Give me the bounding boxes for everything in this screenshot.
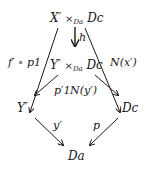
node-middle: Y′ ×Da Dc <box>50 59 103 73</box>
label-p1-prime: p′1 <box>54 85 71 96</box>
node-top: X′ ×Da Dc <box>50 12 103 26</box>
arrow-N-y <box>95 75 118 95</box>
node-top-base: X′ <box>50 11 61 25</box>
node-top-right: Dc <box>87 11 103 25</box>
node-middle-right: Dc <box>87 58 103 72</box>
node-bottom: Da <box>68 150 85 162</box>
times-symbol: × <box>65 13 73 24</box>
label-p: p <box>93 120 100 131</box>
node-middle-base: Y′ <box>50 58 61 72</box>
times-symbol: × <box>64 60 72 71</box>
subscript: Da <box>74 18 84 26</box>
subscript: Da <box>73 65 83 73</box>
label-h: h <box>79 32 86 43</box>
label-f-p1: f′ ∘ p1 <box>8 57 41 68</box>
label-y-prime: y′ <box>53 120 62 131</box>
node-left: Y′ <box>17 102 28 114</box>
node-right: Dc <box>122 102 138 114</box>
label-N-y: N(y′) <box>70 85 97 96</box>
label-N-x: N(x′) <box>110 57 137 68</box>
